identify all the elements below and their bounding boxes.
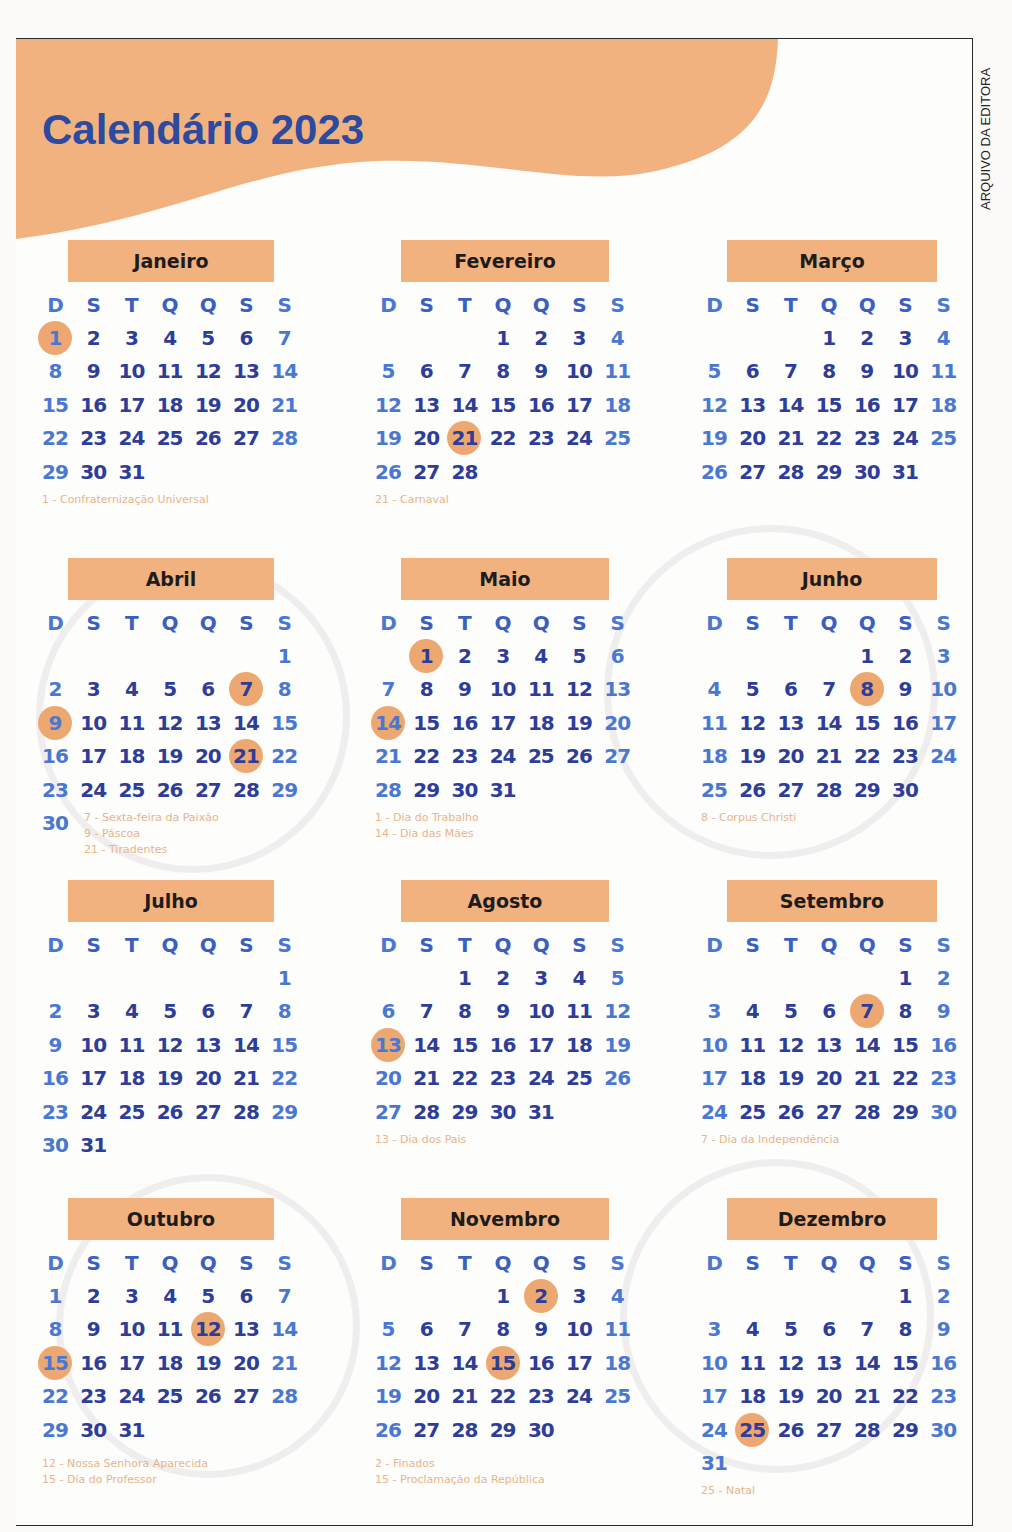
calendar-day: 1 [445,963,483,993]
calendar-day: 9 [848,356,886,386]
calendar-day: 27 [189,1097,227,1127]
calendar-day: 13 [189,708,227,738]
calendar-day: 15 [886,1348,924,1378]
weekday-label: D [36,290,74,320]
month-header: Outubro [68,1198,274,1240]
calendar-day: 8 [36,356,74,386]
calendar-day: 26 [771,1097,809,1127]
calendar-day: 7 [265,323,303,353]
calendar-day: 17 [112,1348,150,1378]
calendar-day: 18 [924,390,962,420]
calendar-day: 25 [560,1063,598,1093]
holiday-note: 1 - Dia do Trabalho [375,810,479,826]
calendar-day: 23 [36,775,74,805]
calendar-day: 16 [36,741,74,771]
calendar-day: 24 [924,741,962,771]
calendar-day: 2 [924,963,962,993]
calendar-day: 30 [886,775,924,805]
calendar-day: 6 [810,996,848,1026]
calendar-day: 11 [598,1314,636,1344]
weekday-label: Q [848,290,886,320]
weekday-label: Q [484,930,522,960]
month-header: Março [727,240,937,282]
weekday-label: S [265,608,303,638]
weekday-label: S [227,608,265,638]
holiday-day: 13 [369,1030,407,1060]
calendar-day: 7 [407,996,445,1026]
calendar-day: 31 [886,457,924,487]
weekday-label: D [695,930,733,960]
calendar-day: 11 [924,356,962,386]
calendar-day: 10 [74,708,112,738]
holiday-notes: 12 - Nossa Senhora Aparecida15 - Dia do … [42,1456,208,1488]
calendar-day: 11 [151,356,189,386]
calendar-day: 9 [522,1314,560,1344]
weekday-label: T [445,290,483,320]
calendar-day: 21 [445,1381,483,1411]
weekday-label: Q [810,290,848,320]
weekday-label: Q [522,930,560,960]
calendar-day: 24 [695,1097,733,1127]
calendar-day: 29 [36,457,74,487]
calendar-day: 27 [227,423,265,453]
calendar-day: 9 [484,996,522,1026]
calendar-day: 27 [369,1097,407,1127]
calendar-day: 21 [227,1063,265,1093]
calendar-day: 26 [771,1415,809,1445]
calendar-day: 6 [227,1281,265,1311]
calendar-day: 16 [36,1063,74,1093]
calendar-day: 3 [560,323,598,353]
weekday-label: D [369,930,407,960]
calendar-day: 22 [886,1381,924,1411]
calendar-day: 4 [924,323,962,353]
calendar-day: 18 [151,1348,189,1378]
holiday-day: 9 [36,708,74,738]
calendar-day: 24 [522,1063,560,1093]
holiday-day: 21 [445,423,483,453]
calendar-day: 13 [227,356,265,386]
calendar-day: 26 [151,1097,189,1127]
calendar-day: 13 [189,1030,227,1060]
weekday-label: D [695,290,733,320]
calendar-day: 7 [445,356,483,386]
calendar-day: 7 [265,1281,303,1311]
calendar-day: 22 [848,741,886,771]
calendar-day: 19 [369,1381,407,1411]
holiday-notes: 13 - Dia dos Pais [375,1132,466,1148]
holiday-day: 1 [407,641,445,671]
month-header: Junho [727,558,937,600]
weekday-label: S [227,1248,265,1278]
calendar-day: 8 [484,356,522,386]
weekday-label: Q [484,608,522,638]
calendar-day: 13 [407,390,445,420]
weekday-label: S [886,930,924,960]
calendar-day: 29 [484,1415,522,1445]
calendar-day: 30 [924,1097,962,1127]
calendar-day: 27 [771,775,809,805]
holiday-notes: 7 - Dia da Independência [701,1132,839,1148]
calendar-day: 12 [560,674,598,704]
calendar-day: 26 [733,775,771,805]
calendar-day: 23 [886,741,924,771]
calendar-day: 20 [407,1381,445,1411]
calendar-day: 1 [484,323,522,353]
calendar-day: 21 [771,423,809,453]
calendar-day: 3 [886,323,924,353]
calendar-day: 15 [265,1030,303,1060]
calendar-day: 9 [886,674,924,704]
calendar-day: 31 [695,1448,733,1478]
weekday-label: S [924,930,962,960]
calendar-day: 26 [598,1063,636,1093]
holiday-notes: 1 - Dia do Trabalho14 - Dia das Mães [375,810,479,842]
calendar-day: 1 [848,641,886,671]
calendar-day: 6 [407,356,445,386]
calendar-day: 25 [733,1097,771,1127]
month-header: Abril [68,558,274,600]
calendar-day: 10 [695,1030,733,1060]
calendar-day: 28 [407,1097,445,1127]
calendar-day: 20 [189,1063,227,1093]
calendar-day: 28 [227,775,265,805]
calendar-day: 5 [369,356,407,386]
weekday-label: D [695,608,733,638]
calendar-day: 29 [810,457,848,487]
